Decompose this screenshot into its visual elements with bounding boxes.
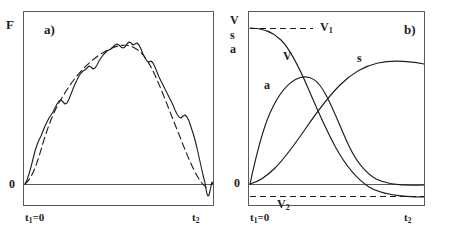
panel-b-v1-label: V1 [320,21,333,35]
panel-b-y-axis-label-line-1: V [230,14,239,26]
panel-a-zero-tick-label: 0 [9,178,15,190]
panel-b-x-end-tick-label: t2 [404,212,411,224]
panel-b-zero-tick-label: 0 [234,177,240,189]
panel-b-displacement-curve-label: s [357,52,362,64]
panel-b-v2-label: V2 [277,198,290,212]
panel-b-x-start-tick-label: t1=0 [250,212,269,224]
figure-canvas [0,0,449,241]
panel-b-label: b) [404,23,416,36]
panel-b-acceleration-curve [250,77,424,186]
panel-b-y-axis-label-line-2: s [230,29,235,41]
panel-a-measured-force-curve [25,42,213,196]
panel-b-y-axis-label-line-3: a [230,43,236,55]
panel-a-y-axis-label: F [6,18,14,31]
panel-b [249,12,425,206]
panel-b-displacement-curve [250,61,424,184]
panel-a-x-end-tick-label: t2 [192,212,199,224]
panel-b-velocity-curve-label: V [283,50,292,62]
panel-a-frame [24,12,214,206]
panel-b-acceleration-curve-label: a [264,79,270,91]
panel-b-velocity-curve [250,28,424,197]
panel-a-x-start-tick-label: t1=0 [25,212,44,224]
panel-a-label: a) [44,23,55,36]
panel-b-frame [249,12,425,206]
panel-a [24,12,214,206]
